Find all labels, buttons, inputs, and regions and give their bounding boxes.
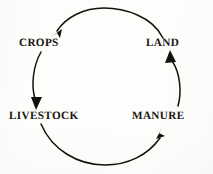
edge-livestock-to-manure xyxy=(41,124,165,165)
edge-crops-to-livestock xyxy=(31,52,42,110)
arc-manure-to-land xyxy=(172,61,180,106)
arrowhead-up-right-manure xyxy=(156,126,165,139)
arc-land-to-crops xyxy=(57,8,163,38)
edge-land-to-crops xyxy=(51,8,163,38)
arc-livestock-to-manure xyxy=(41,124,160,165)
arrowhead-up-land xyxy=(165,50,176,63)
node-label-crops: CROPS xyxy=(19,38,59,49)
arrowhead-down-livestock xyxy=(31,97,42,110)
node-label-land: LAND xyxy=(146,38,179,49)
node-label-manure: MANURE xyxy=(132,111,184,122)
node-label-livestock: LIVESTOCK xyxy=(9,111,78,122)
cycle-arcs-svg xyxy=(0,0,213,174)
arc-crops-to-livestock xyxy=(33,52,41,99)
cycle-diagram: CROPS LAND LIVESTOCK MANURE xyxy=(0,0,213,174)
edge-manure-to-land xyxy=(165,50,180,106)
